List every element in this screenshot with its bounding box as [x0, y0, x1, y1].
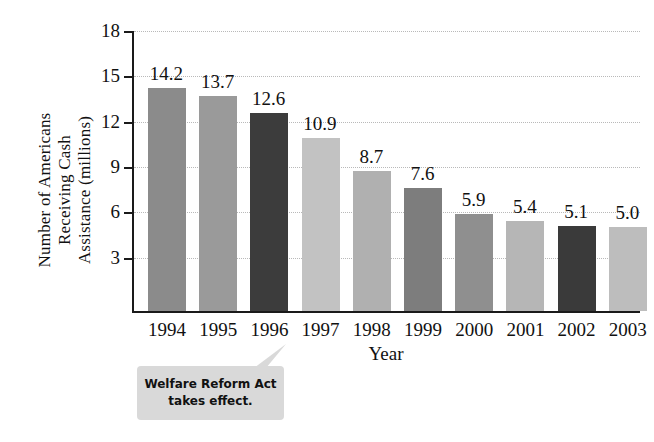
callout-line-1: Welfare Reform Act: [144, 376, 276, 393]
x-tick-label-2000: 2000: [448, 319, 500, 341]
x-tick-label-2003: 2003: [602, 319, 654, 341]
x-axis-title: Year: [132, 343, 640, 365]
x-tick-label-1994: 1994: [141, 319, 193, 341]
bar-value-label: 5.1: [564, 201, 588, 223]
bar-value-label: 12.6: [252, 88, 285, 110]
x-tick-label-2001: 2001: [499, 319, 551, 341]
x-tick-label-1998: 1998: [346, 319, 398, 341]
bar-value-label: 8.7: [359, 146, 383, 168]
y-tick-mark: [124, 258, 133, 260]
y-tick-label: 6: [111, 201, 121, 223]
y-tick-label: 9: [111, 156, 121, 178]
bar-1994: 14.2: [148, 88, 186, 311]
x-axis-line: [132, 311, 640, 313]
x-tick-label-1999: 1999: [397, 319, 449, 341]
x-tick-label-1997: 1997: [295, 319, 347, 341]
bar-value-label: 5.9: [462, 189, 486, 211]
plot-area: 181512963 14.213.712.610.98.77.65.95.45.…: [132, 31, 640, 313]
bar-2001: 5.4: [506, 221, 544, 311]
y-axis-title: Number of Americans Receiving Cash Assis…: [35, 45, 95, 335]
x-tick-label-1996: 1996: [243, 319, 295, 341]
x-tick-label-1995: 1995: [192, 319, 244, 341]
bar-value-label: 14.2: [150, 63, 183, 85]
y-tick-mark: [124, 212, 133, 214]
y-axis-line: [132, 31, 134, 313]
gridline-18: [134, 31, 640, 33]
y-axis-title-line-2: Receiving Cash: [55, 45, 75, 335]
welfare-reform-callout: Welfare Reform Act takes effect.: [137, 366, 284, 420]
bar-chart: Number of Americans Receiving Cash Assis…: [0, 0, 654, 442]
y-axis-title-line-3: Assistance (millions): [75, 45, 95, 335]
bar-value-label: 7.6: [411, 163, 435, 185]
y-axis-title-line-1: Number of Americans: [35, 45, 55, 335]
bar-2003: 5.0: [609, 227, 647, 311]
bar-value-label: 5.0: [615, 202, 639, 224]
bar-1999: 7.6: [404, 188, 442, 311]
bar-value-label: 10.9: [303, 113, 336, 135]
x-tick-label-2002: 2002: [551, 319, 603, 341]
bar-value-label: 13.7: [201, 71, 234, 93]
y-tick-mark: [124, 76, 133, 78]
bar-1998: 8.7: [353, 171, 391, 311]
y-tick-mark: [124, 167, 133, 169]
bar-2002: 5.1: [558, 226, 596, 311]
y-tick-mark: [124, 31, 133, 33]
bar-2000: 5.9: [455, 214, 493, 311]
callout-line-2: takes effect.: [168, 393, 252, 410]
y-tick-label: 3: [111, 247, 121, 269]
y-tick-label: 18: [101, 20, 120, 42]
y-tick-mark: [124, 122, 133, 124]
bar-1996: 12.6: [250, 113, 288, 311]
y-tick-label: 15: [101, 65, 120, 87]
y-tick-label: 12: [101, 111, 120, 133]
bar-1995: 13.7: [199, 96, 237, 311]
bar-value-label: 5.4: [513, 196, 537, 218]
bar-1997: 10.9: [302, 138, 340, 311]
